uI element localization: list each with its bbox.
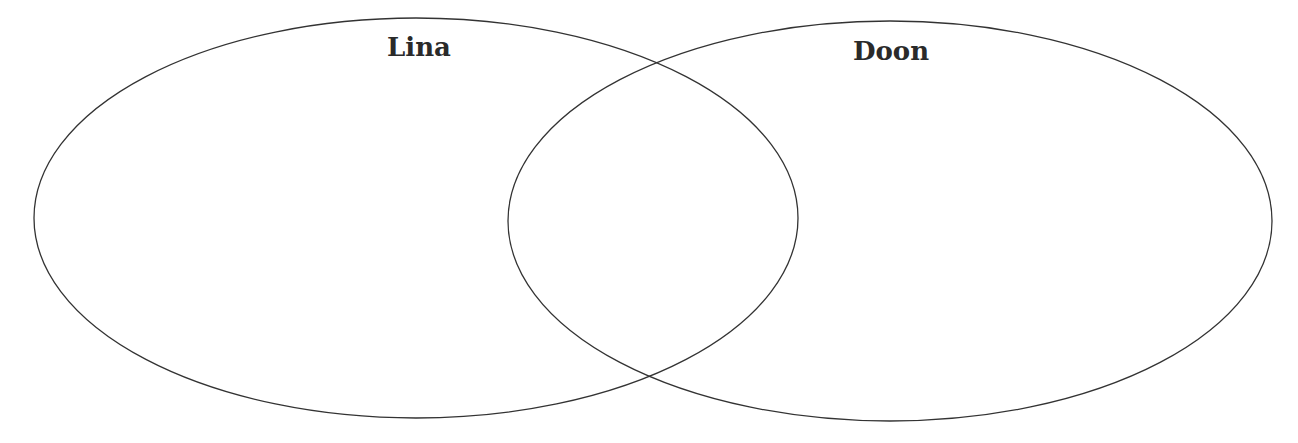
left-only-region	[60, 120, 480, 320]
venn-diagram: Lina Doon	[0, 0, 1298, 443]
lina-set-label: Lina	[387, 32, 451, 62]
right-only-region	[820, 120, 1240, 320]
overlap-region	[530, 120, 780, 320]
doon-set-label: Doon	[853, 36, 929, 66]
